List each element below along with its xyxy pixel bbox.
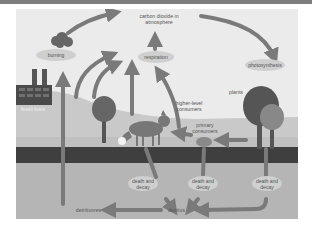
death-decay-line-2: decay xyxy=(192,184,214,190)
detritivores-label: detritivores xyxy=(71,207,106,213)
burning-node: burning xyxy=(36,49,76,61)
carbon-cycle-diagram: carbon dioxide in atmosphere respiration… xyxy=(16,9,298,219)
fossil-fuels-label: fossil fuels xyxy=(18,106,48,112)
top-border xyxy=(0,0,312,4)
death-decay-line-2: decay xyxy=(132,184,154,190)
death-decay-line-1: death and xyxy=(256,178,278,184)
death-decay-node-3: death anddecay xyxy=(252,176,282,191)
atmosphere-label: carbon dioxide in atmosphere xyxy=(134,13,184,25)
detritus-label: detritus xyxy=(164,207,189,213)
smoke-cloud-icon xyxy=(51,32,73,48)
higher-consumers-line-2: consumers xyxy=(171,106,207,112)
higher-consumers-label: higher-level consumers xyxy=(171,100,207,112)
death-decay-line-1: death and xyxy=(192,178,214,184)
death-decay-line-2: decay xyxy=(256,184,278,190)
respiration-node: respiration xyxy=(138,51,174,63)
factory-icon xyxy=(16,69,52,105)
plants-label: plants xyxy=(226,89,246,95)
atmosphere-line-2: atmosphere xyxy=(134,19,184,25)
death-decay-node-1: death anddecay xyxy=(128,176,158,191)
death-decay-line-1: death and xyxy=(132,178,154,184)
soil-layer xyxy=(16,147,298,163)
photosynthesis-node: photosynthesis xyxy=(245,59,285,71)
primary-consumers-label: primary consumers xyxy=(187,122,223,134)
primary-consumers-line-2: consumers xyxy=(187,128,223,134)
surface-ground xyxy=(16,137,298,147)
death-decay-node-2: death anddecay xyxy=(188,176,218,191)
rabbit-icon xyxy=(196,137,212,147)
